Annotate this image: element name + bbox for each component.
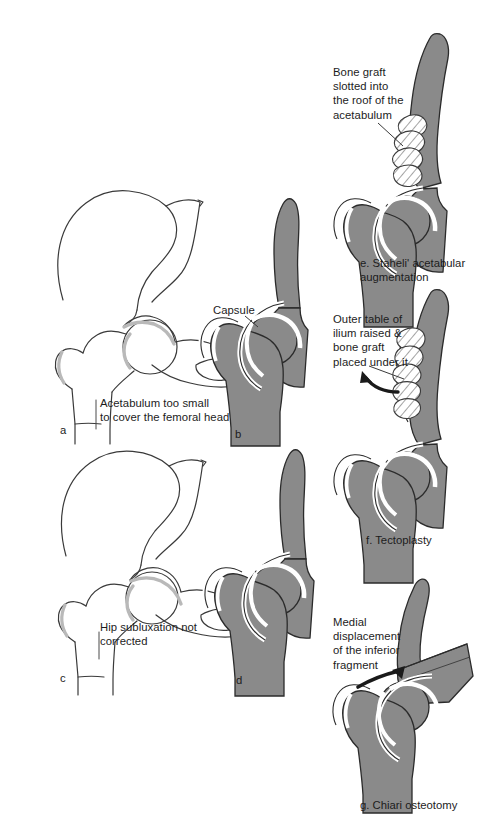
panel-c-drawing <box>58 451 260 695</box>
panel-a-annotation: Acetabulum too small to cover the femora… <box>100 396 250 424</box>
panel-b-letter: b <box>235 428 241 440</box>
panel-e-annotation: Bone graft slotted into the roof of the … <box>333 65 443 122</box>
panel-f-caption: f. Tectoplasty <box>366 533 483 547</box>
panel-d-drawing <box>205 450 314 696</box>
panel-g-annotation: Medial displacement of the inferior frag… <box>333 615 443 672</box>
panel-b-annotation: Capsule <box>213 303 273 317</box>
panel-c-annotation: Hip subluxation not corrected <box>100 620 250 648</box>
panel-f-annotation: Outer table of ilium raised & bone graft… <box>333 312 443 369</box>
hip-surgery-figure: Acetabulum too small to cover the femora… <box>0 0 483 823</box>
panel-g-caption: g. Chiari osteotomy <box>360 798 483 812</box>
panel-e-caption: e. Staheli' acetabular augmentation <box>360 256 483 284</box>
panel-a-letter: a <box>60 424 66 436</box>
panel-c-letter: c <box>60 672 66 684</box>
panel-d-letter: d <box>236 674 242 686</box>
